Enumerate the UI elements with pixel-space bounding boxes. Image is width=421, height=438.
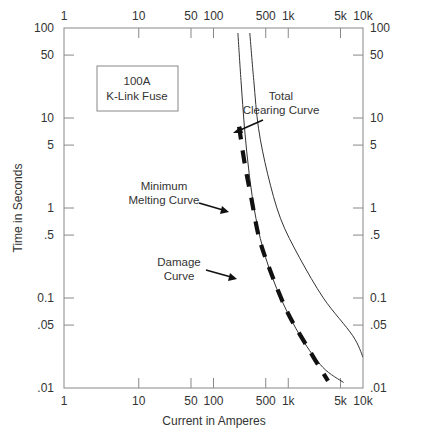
x-tick-label-top: 5k bbox=[334, 9, 348, 23]
y-tick-label-right: 5 bbox=[370, 138, 377, 152]
y-axis-title: Time in Seconds bbox=[11, 164, 25, 253]
y-tick-label-left: 5 bbox=[47, 138, 54, 152]
y-tick-label-right: .05 bbox=[370, 318, 387, 332]
x-tick-label-bottom: 1 bbox=[61, 394, 68, 408]
fuse-rating-label: 100A bbox=[124, 75, 151, 87]
fuse-type-label: K-Link Fuse bbox=[106, 90, 167, 102]
total-clearing-label-1: Total bbox=[269, 90, 293, 102]
x-tick-label-bottom: 500 bbox=[256, 394, 276, 408]
total-clearing-label-2: Clearing Curve bbox=[243, 104, 320, 116]
y-tick-label-left: .5 bbox=[44, 228, 54, 242]
curves bbox=[238, 33, 363, 383]
x-tick-label-bottom: 1k bbox=[282, 394, 296, 408]
x-tick-label-top: 50 bbox=[184, 9, 198, 23]
damage-curve-line bbox=[239, 127, 328, 381]
x-tick-label-bottom: 10k bbox=[353, 394, 373, 408]
x-tick-label-top: 500 bbox=[256, 9, 276, 23]
damage-arrow-icon bbox=[206, 270, 237, 281]
damage-label-1: Damage bbox=[157, 256, 200, 268]
y-tick-label-right: 50 bbox=[370, 48, 384, 62]
x-tick-label-bottom: 10 bbox=[132, 394, 146, 408]
y-tick-label-right: 10 bbox=[370, 111, 384, 125]
y-tick-label-right: 0.1 bbox=[370, 291, 387, 305]
x-tick-label-top: 1k bbox=[282, 9, 296, 23]
y-tick-label-right: 100 bbox=[370, 21, 390, 35]
y-tick-label-right: .5 bbox=[370, 228, 380, 242]
tcc-chart: 11101050501001005005001k1k5k5k10k10k1001… bbox=[0, 0, 421, 438]
min-melting-label-2: Melting Curve bbox=[129, 194, 200, 206]
y-tick-label-left: 10 bbox=[41, 111, 55, 125]
damage-label-2: Curve bbox=[164, 270, 195, 282]
y-tick-label-right: 1 bbox=[370, 201, 377, 215]
axis-tick-labels: 11101050501001005005001k1k5k5k10k10k1001… bbox=[34, 9, 390, 408]
y-tick-label-left: 50 bbox=[41, 48, 55, 62]
y-tick-label-left: .05 bbox=[37, 318, 54, 332]
x-axis-title: Current in Amperes bbox=[162, 414, 265, 428]
x-tick-label-top: 100 bbox=[203, 9, 223, 23]
y-tick-label-left: 0.1 bbox=[37, 291, 54, 305]
total-clearing-curve-line bbox=[250, 33, 363, 357]
x-tick-label-bottom: 50 bbox=[184, 394, 198, 408]
min-melting-label-1: Minimum bbox=[141, 180, 188, 192]
min-melting-arrow-icon bbox=[199, 203, 229, 214]
fuse-label-box bbox=[97, 66, 178, 111]
x-tick-label-top: 10 bbox=[132, 9, 146, 23]
y-tick-label-left: 100 bbox=[34, 21, 54, 35]
x-tick-label-bottom: 100 bbox=[203, 394, 223, 408]
y-tick-label-left: .01 bbox=[37, 381, 54, 395]
y-tick-label-right: .01 bbox=[370, 381, 387, 395]
x-tick-label-bottom: 5k bbox=[334, 394, 348, 408]
x-tick-label-top: 1 bbox=[61, 9, 68, 23]
y-tick-label-left: 1 bbox=[47, 201, 54, 215]
